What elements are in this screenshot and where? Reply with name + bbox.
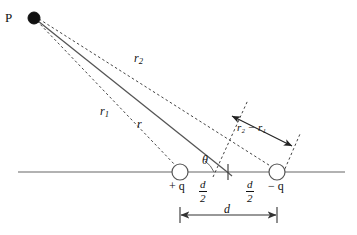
positive-charge-circle [172,164,188,180]
wavefront-dashed-near [213,100,248,177]
half-separation-denominator-left: 2 [199,192,207,204]
half-separation-label-left: d 2 [199,179,207,204]
r2-label: r2 [134,52,143,66]
r-solid-line [38,21,226,171]
r-label: r [137,118,142,130]
r1-label: r1 [100,105,109,119]
r1-subscript: 1 [105,109,109,119]
diagram-canvas [0,0,357,235]
path-difference-label: r₂ − r₁ [237,122,266,133]
half-separation-denominator-right: 2 [246,192,254,204]
positive-charge-label: + q [169,180,185,192]
dipole-diagram: P r2 r1 r r₂ − r₁ θ + q − q d 2 d 2 d [0,0,357,235]
point-p-label: P [5,11,12,24]
point-p-dot [28,12,40,24]
negative-charge-circle [269,164,285,180]
r2-subscript: 2 [139,56,143,66]
half-separation-numerator-right: d [246,179,254,192]
theta-label: θ [202,154,208,166]
r1-dashed-line [37,21,176,166]
half-separation-numerator-left: d [199,179,207,192]
half-separation-label-right: d 2 [246,179,254,204]
negative-charge-label: − q [268,180,284,192]
separation-label: d [224,203,230,215]
